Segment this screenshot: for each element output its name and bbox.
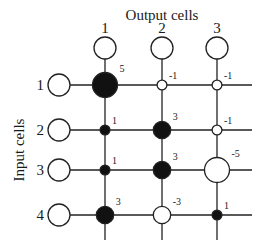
- input-cell-1: [48, 74, 70, 96]
- synapse-node: [100, 165, 110, 175]
- input-cell-4: [48, 204, 70, 226]
- synapse-node: [212, 125, 222, 135]
- synapse-weight-label: 5: [120, 63, 125, 74]
- synapse-weight-label: 1: [112, 115, 117, 126]
- synapse-node: [212, 80, 222, 90]
- synapse-weight-label: -1: [224, 70, 232, 81]
- output-cell-2: [151, 37, 173, 59]
- input-cell-2: [48, 119, 70, 141]
- synapse-node: [153, 121, 170, 138]
- output-cell-label: 2: [158, 20, 166, 36]
- input-cells-title: Input cells: [11, 118, 27, 181]
- synapse-node: [153, 161, 170, 178]
- weight-matrix-diagram: Output cells Input cells 12312345-1-113-…: [0, 0, 265, 247]
- synapse-node: [212, 210, 222, 220]
- synapse-weight-label: -5: [232, 148, 240, 159]
- output-cell-3: [206, 37, 228, 59]
- synapse-weight-label: 3: [116, 196, 121, 207]
- synapse-weight-label: 1: [224, 200, 229, 211]
- synapse-weight-label: 1: [112, 155, 117, 166]
- input-cell-label: 1: [37, 77, 45, 93]
- synapse-weight-label: 3: [173, 111, 178, 122]
- synapse-weight-label: -3: [173, 196, 181, 207]
- input-cell-label: 2: [37, 122, 45, 138]
- synapse-node: [153, 206, 170, 223]
- synapse-node: [100, 125, 110, 135]
- synapse-weight-label: -1: [169, 70, 177, 81]
- output-cell-1: [94, 37, 116, 59]
- synapse-node: [205, 158, 230, 183]
- input-cell-label: 3: [37, 162, 45, 178]
- output-cell-label: 1: [101, 20, 109, 36]
- input-cell-label: 4: [37, 207, 45, 223]
- output-cell-label: 3: [213, 20, 221, 36]
- synapse-node: [93, 73, 118, 98]
- synapse-weight-label: -1: [224, 115, 232, 126]
- synapse-weight-label: 3: [173, 151, 178, 162]
- synapse-node: [157, 80, 167, 90]
- input-cell-3: [48, 159, 70, 181]
- synapse-node: [96, 206, 113, 223]
